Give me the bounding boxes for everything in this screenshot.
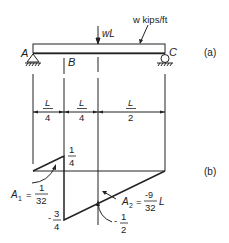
svg-text:32: 32: [36, 195, 47, 206]
beam: [33, 44, 165, 53]
svg-text:=: =: [136, 196, 142, 207]
peak-negative-label: - 3 4: [48, 208, 61, 232]
svg-text:4: 4: [69, 157, 74, 168]
svg-text:4: 4: [54, 221, 59, 232]
svg-text:2: 2: [121, 224, 126, 235]
label-b: B: [68, 56, 75, 68]
svg-text:-9: -9: [145, 190, 153, 200]
svg-text:A: A: [121, 196, 129, 207]
svg-text:L: L: [45, 97, 50, 108]
point-load-label: wL: [102, 28, 115, 39]
svg-text:L: L: [79, 97, 84, 108]
figure-label-a: (a): [204, 47, 216, 58]
dimension-label-1: L 4: [43, 97, 53, 123]
svg-text:1: 1: [39, 182, 44, 193]
influence-line-diagram: A B C wL w kips/ft (a) L 4 L 4 L 2 1 4 -…: [0, 0, 229, 243]
svg-text:L: L: [128, 97, 133, 108]
figure-label-b: (b): [204, 166, 216, 177]
svg-text:A: A: [10, 189, 18, 200]
area1-label: A 1 = 1 32: [10, 182, 48, 206]
svg-text:2: 2: [128, 112, 133, 123]
svg-text:1: 1: [69, 144, 74, 155]
svg-text:3: 3: [54, 208, 59, 219]
dimension-label-2: L 4: [77, 97, 87, 123]
svg-text:1: 1: [18, 195, 22, 202]
value-at-load-label: - 1 2: [114, 211, 128, 235]
label-c: C: [169, 46, 177, 58]
svg-text:1: 1: [121, 211, 126, 222]
area2-label: A 2 = -9 32 L: [121, 190, 165, 213]
distributed-load-label: w kips/ft: [132, 14, 168, 25]
svg-text:2: 2: [129, 202, 133, 209]
peak-positive-label: 1 4: [68, 144, 76, 168]
point-load-arrow-icon: [96, 26, 100, 44]
svg-text:4: 4: [45, 112, 50, 123]
svg-text:=: =: [26, 189, 32, 200]
svg-text:32: 32: [145, 202, 156, 213]
svg-text:4: 4: [79, 112, 84, 123]
svg-text:-: -: [114, 215, 117, 226]
dimension-label-3: L 2: [126, 97, 136, 123]
label-a: A: [20, 47, 28, 59]
svg-text:-: -: [48, 212, 51, 223]
svg-text:L: L: [159, 196, 165, 207]
